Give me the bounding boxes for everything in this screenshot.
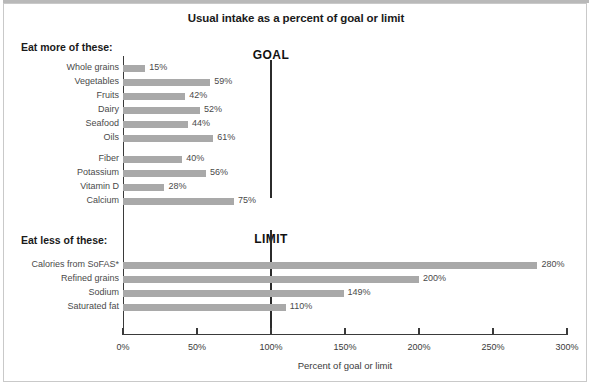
bar (123, 93, 185, 100)
category-label: Seafood (19, 118, 119, 128)
bar (123, 290, 344, 297)
bar-row: 149% (123, 287, 567, 299)
bar (123, 107, 200, 114)
bar (123, 79, 210, 86)
category-label: Saturated fat (19, 301, 119, 311)
x-tick-200 (418, 328, 419, 335)
bar-row: 42% (123, 90, 567, 102)
bar-value-label: 59% (214, 76, 232, 86)
category-label: Fruits (19, 90, 119, 100)
bar-value-label: 56% (210, 167, 228, 177)
bar-value-label: 149% (348, 287, 371, 297)
bar (123, 304, 286, 311)
category-label: Oils (19, 132, 119, 142)
bar (123, 276, 419, 283)
bar-row: 44% (123, 118, 567, 130)
bar-value-label: 42% (189, 90, 207, 100)
x-tick-label-300: 300% (555, 342, 578, 352)
x-tick-0 (122, 328, 123, 335)
bar-value-label: 28% (168, 181, 186, 191)
bar (123, 65, 145, 72)
category-label: Dairy (19, 104, 119, 114)
bar-row: 110% (123, 301, 567, 313)
x-tick-300 (566, 328, 567, 335)
bar (123, 121, 188, 128)
bar-row: 75% (123, 195, 567, 207)
bar-row: 40% (123, 153, 567, 165)
category-label: Calories from SoFAS* (19, 259, 119, 269)
bar (123, 184, 164, 191)
bar-row: 200% (123, 273, 567, 285)
bar-value-label: 61% (217, 132, 235, 142)
bar-value-label: 44% (192, 118, 210, 128)
plot-area: 15%59%42%52%44%61%40%56%28%75%280%200%14… (123, 56, 567, 335)
bar-row: 280% (123, 259, 567, 271)
bar-value-label: 52% (204, 104, 222, 114)
bar (123, 198, 234, 205)
category-label: Whole grains (19, 62, 119, 72)
category-label: Vegetables (19, 76, 119, 86)
x-tick-50 (196, 328, 197, 335)
chart-frame: Usual intake as a percent of goal or lim… (3, 3, 587, 382)
bar-value-label: 75% (238, 195, 256, 205)
bar-row: 56% (123, 167, 567, 179)
bar (123, 170, 206, 177)
x-tick-label-200: 200% (407, 342, 430, 352)
bar-value-label: 280% (541, 259, 564, 269)
bar-row: 59% (123, 76, 567, 88)
x-tick-label-250: 250% (481, 342, 504, 352)
bar-value-label: 200% (423, 273, 446, 283)
bar-row: 28% (123, 181, 567, 193)
category-label: Refined grains (19, 273, 119, 283)
bar-value-label: 15% (149, 62, 167, 72)
chart-title: Usual intake as a percent of goal or lim… (4, 12, 588, 24)
category-label: Vitamin D (19, 181, 119, 191)
x-axis-label: Percent of goal or limit (123, 360, 567, 371)
x-tick-100 (270, 328, 271, 335)
bar (123, 262, 537, 269)
x-tick-label-0: 0% (116, 342, 129, 352)
x-tick-150 (344, 328, 345, 335)
x-tick-label-150: 150% (333, 342, 356, 352)
category-label: Fiber (19, 153, 119, 163)
bar-row: 52% (123, 104, 567, 116)
category-label: Calcium (19, 195, 119, 205)
x-tick-250 (492, 328, 493, 335)
category-label: Sodium (19, 287, 119, 297)
x-tick-label-100: 100% (259, 342, 282, 352)
bar-value-label: 110% (290, 301, 312, 311)
section-heading-eat-more: Eat more of these: (21, 41, 113, 53)
bar-row: 15% (123, 62, 567, 74)
bar (123, 156, 182, 163)
bar-value-label: 40% (186, 153, 204, 163)
bar-row: 61% (123, 132, 567, 144)
category-label-column: Whole grainsVegetablesFruitsDairySeafood… (18, 56, 119, 335)
x-tick-label-50: 50% (188, 342, 206, 352)
bar (123, 135, 213, 142)
category-label: Potassium (19, 167, 119, 177)
